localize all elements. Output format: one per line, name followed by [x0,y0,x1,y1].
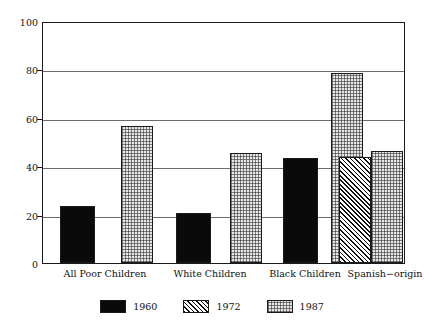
legend-item-1987: 1987 [267,300,324,313]
x-category-label-spanish-origin: Spanish−origin [330,268,424,279]
bar-white-children-1987 [230,153,262,263]
y-tick-label-0: 0 [4,260,38,270]
gridline-80 [43,71,404,72]
bar-black-children-1960 [283,158,318,263]
plot-area [42,22,405,264]
x-category-label-white-children: White Children [155,268,265,279]
y-tick-label-80: 80 [4,66,38,76]
bar-spanish-origin-1987 [371,151,403,263]
bar-all-poor-children-1987 [121,126,153,263]
legend-label-1972: 1972 [216,302,240,312]
y-tick-label-40: 40 [4,163,38,173]
y-axis: 100 80 60 40 20 0 [0,0,38,334]
legend-item-1972: 1972 [183,300,240,313]
bar-spanish-origin-1972-group [339,157,371,263]
legend-label-1987: 1987 [300,302,324,312]
legend-label-1960: 1960 [133,302,157,312]
y-tick-label-100: 100 [4,18,38,28]
x-category-label-all-poor-children: All Poor Children [40,268,170,279]
chart-legend: 1960 1972 1987 [0,300,424,313]
bar-white-children-1960 [176,213,211,263]
legend-swatch-1987-icon [267,300,293,313]
legend-swatch-1960-icon [100,300,126,313]
y-tick-label-60: 60 [4,115,38,125]
y-tick-label-20: 20 [4,212,38,222]
legend-item-1960: 1960 [100,300,157,313]
bar-all-poor-children-1960 [60,206,95,263]
bar-chart: 100 80 60 40 20 0 All Poor Children Whit… [0,0,424,334]
legend-swatch-1972-icon [183,300,209,313]
